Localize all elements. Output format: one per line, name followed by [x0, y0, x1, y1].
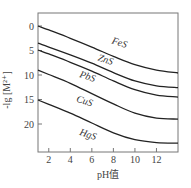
curve-hgs	[38, 100, 178, 143]
x-tick-label: 8	[111, 154, 116, 165]
x-tick-label: 12	[151, 154, 161, 165]
y-tick-label: 20	[24, 119, 34, 130]
y-axis-ticks: 05101520	[24, 21, 42, 130]
curve-label-zns: ZnS	[97, 52, 115, 67]
y-tick-label: 5	[29, 45, 34, 56]
curve-label-hgs: HgS	[77, 126, 98, 142]
curves: FeSZnSPbSCuSHgS	[38, 26, 178, 143]
y-tick-label: 0	[29, 21, 34, 32]
y-axis-title: -lg [M²⁺]	[1, 71, 12, 108]
solubility-chart: 05101520 24681012 FeSZnSPbSCuSHgS pH值 -l…	[0, 0, 191, 188]
x-axis-title: pH值	[97, 168, 119, 180]
y-tick-label: 10	[24, 70, 34, 81]
curve-label-cus: CuS	[75, 93, 94, 109]
curve-label-pbs: PbS	[77, 68, 97, 84]
x-tick-label: 10	[130, 154, 140, 165]
curve-label-fes: FeS	[110, 34, 129, 50]
x-tick-label: 6	[89, 154, 94, 165]
x-axis-ticks: 24681012	[46, 148, 161, 165]
curve-fes	[38, 26, 178, 73]
y-tick-label: 15	[24, 94, 34, 105]
x-tick-label: 2	[46, 154, 51, 165]
x-tick-label: 4	[68, 154, 73, 165]
